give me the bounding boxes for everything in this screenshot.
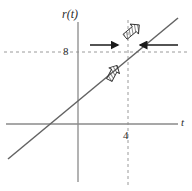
tick-label-r-8: 8 xyxy=(63,46,69,57)
tick-label-t-4: 4 xyxy=(123,130,129,141)
y-axis-label: r(t) xyxy=(62,8,78,20)
solution-line xyxy=(8,18,178,159)
x-axis-label: t xyxy=(181,117,184,128)
plot-canvas xyxy=(0,0,192,191)
upper-hatched-slope-arrow xyxy=(121,20,144,42)
differential-equation-figure: r(t) t 8 4 xyxy=(0,0,192,191)
